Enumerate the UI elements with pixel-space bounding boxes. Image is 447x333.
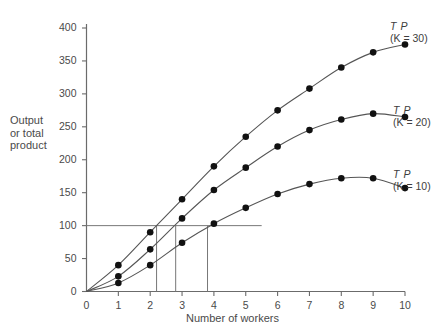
x-tick-label-7: 7 xyxy=(301,299,317,311)
data-point xyxy=(147,262,154,269)
y-tick-label-350: 350 xyxy=(51,54,77,66)
y-tick-label-0: 0 xyxy=(51,285,77,297)
x-tick-label-8: 8 xyxy=(333,299,349,311)
data-point xyxy=(242,164,249,171)
y-axis-title-line-2: or total xyxy=(10,127,47,140)
series-label-tp-k30-line2: (K = 30) xyxy=(390,32,428,44)
y-tick-label-400: 400 xyxy=(51,21,77,33)
x-tick-label-4: 4 xyxy=(206,299,222,311)
x-tick-label-5: 5 xyxy=(238,299,254,311)
data-point xyxy=(370,110,377,117)
series-label-tp-k10-line1: T P xyxy=(393,168,411,180)
data-point xyxy=(274,143,281,150)
y-tick-label-150: 150 xyxy=(51,186,77,198)
x-tick-label-10: 10 xyxy=(397,299,413,311)
total-product-chart xyxy=(0,0,447,333)
series-label-tp-k10-line2: (K = 10) xyxy=(393,180,431,192)
series-label-tp-k20-line1: T P xyxy=(393,104,411,116)
series-label-tp-k30: T P (K = 30) xyxy=(390,20,428,44)
data-point xyxy=(274,191,281,198)
y-tick-label-300: 300 xyxy=(51,87,77,99)
chart-figure: Output or total product Number of worker… xyxy=(0,0,447,333)
data-point xyxy=(147,229,154,236)
y-tick-label-100: 100 xyxy=(51,219,77,231)
series-label-tp-k30-line1: T P xyxy=(390,20,408,32)
data-point xyxy=(370,175,377,182)
data-point xyxy=(179,196,186,203)
data-point xyxy=(115,273,122,280)
data-point xyxy=(306,85,313,92)
y-tick-label-200: 200 xyxy=(51,153,77,165)
data-point xyxy=(115,262,122,269)
x-tick-label-3: 3 xyxy=(174,299,190,311)
x-tick-label-0: 0 xyxy=(79,299,95,311)
y-tick-label-50: 50 xyxy=(51,252,77,264)
x-tick-label-9: 9 xyxy=(365,299,381,311)
data-point xyxy=(338,64,345,71)
series-label-tp-k20: T P (K = 20) xyxy=(393,104,431,128)
data-point xyxy=(147,246,154,253)
data-point xyxy=(242,205,249,212)
data-point xyxy=(306,127,313,134)
data-point xyxy=(306,181,313,188)
data-point xyxy=(115,280,122,287)
series-label-tp-k10: T P (K = 10) xyxy=(393,168,431,192)
y-axis-title-line-3: product xyxy=(10,139,47,152)
data-point xyxy=(211,163,218,170)
data-point xyxy=(338,116,345,123)
y-axis-title: Output or total product xyxy=(10,114,47,152)
data-point xyxy=(211,220,218,227)
data-point xyxy=(179,239,186,246)
series-label-tp-k20-line2: (K = 20) xyxy=(393,116,431,128)
y-axis-title-line-1: Output xyxy=(10,114,47,127)
y-tick-label-250: 250 xyxy=(51,120,77,132)
x-tick-label-1: 1 xyxy=(110,299,126,311)
x-tick-label-2: 2 xyxy=(142,299,158,311)
x-axis-title: Number of workers xyxy=(186,312,279,325)
data-point xyxy=(338,175,345,182)
data-point xyxy=(211,187,218,194)
data-point xyxy=(274,107,281,114)
data-point xyxy=(370,49,377,56)
data-point xyxy=(179,215,186,222)
x-tick-label-6: 6 xyxy=(270,299,286,311)
data-point xyxy=(242,133,249,140)
